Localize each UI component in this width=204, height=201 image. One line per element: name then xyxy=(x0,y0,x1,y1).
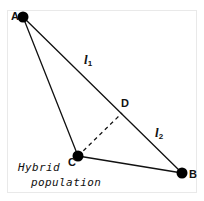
segment-label-l2: l2 xyxy=(155,126,163,139)
caption-line-population: population xyxy=(31,177,101,188)
segment-c-to-d-dashed xyxy=(78,113,122,156)
point-label-b: B xyxy=(189,169,197,180)
point-label-c: C xyxy=(68,157,76,168)
segment-a-to-b xyxy=(23,17,182,173)
figure-container: A B C D l1 l2 Hybrid population xyxy=(0,0,204,201)
point-b-dot xyxy=(177,168,188,179)
point-a-dot xyxy=(18,12,29,23)
point-label-d: D xyxy=(121,98,129,109)
segment-label-l2-subscript: 2 xyxy=(159,132,163,141)
segment-label-l1: l1 xyxy=(84,53,92,66)
caption-line-hybrid: Hybrid xyxy=(18,162,60,173)
segment-a-to-c xyxy=(23,17,78,156)
point-label-a: A xyxy=(11,11,19,22)
segment-label-l1-subscript: 1 xyxy=(88,59,92,68)
